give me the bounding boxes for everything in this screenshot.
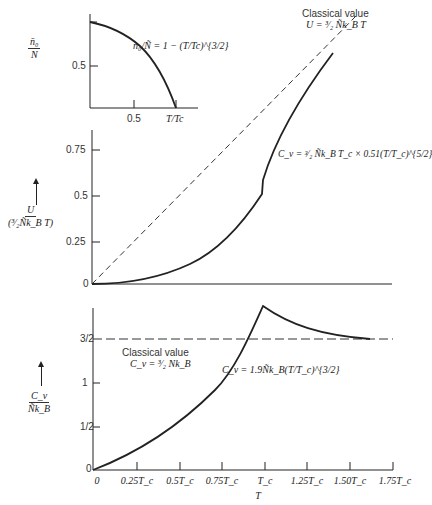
- energy-classical-title: Classical value: [302, 8, 369, 19]
- energy-ylabel-up-arrow-icon: [36, 183, 37, 205]
- heat-xtick-0.25Tc: 0.25T_c: [121, 475, 154, 486]
- inset-xtick-0.5: 0.5: [127, 113, 141, 124]
- heat-xtick-1.75Tc: 1.75T_c: [379, 475, 412, 486]
- energy-curve: [92, 53, 333, 284]
- condensate-curve: [90, 22, 176, 108]
- energy-curve-equation: C_v = ³⁄₂ Ñk_B T_c × 0.51(T/T_c)^{5/2}: [278, 149, 432, 159]
- inset-equation: n₀/Ñ = 1 − (T/Tc)^{3/2}: [133, 40, 229, 51]
- heat-curve-equation: C_v = 1.9Ñk_B(T/T_c)^{3/2}: [222, 364, 340, 375]
- heat-xtick-1.50Tc: 1.50T_c: [334, 475, 367, 486]
- inset-ylabel: n̄₀N: [28, 36, 40, 61]
- heat-xtick-Tc: T_c: [258, 475, 273, 486]
- heat-curve: [93, 306, 370, 470]
- heat-ylabel: C_vÑk_B: [28, 390, 50, 415]
- heat-classical-title: Classical value: [122, 347, 189, 358]
- energy-ytick-0.75: 0.75: [66, 144, 85, 155]
- heat-ytick-3/2: 3/2: [80, 333, 94, 344]
- inset-axes: [90, 14, 198, 108]
- inset-xlabel: T/Tc: [166, 113, 183, 124]
- energy-ylabel: U(³⁄₂Ñk_B T): [8, 204, 53, 229]
- heat-classical-equation: C_v = ³⁄₂ Nk_B: [130, 358, 191, 369]
- heat-axes: [93, 308, 393, 470]
- heat-xtick-0: 0: [95, 475, 100, 486]
- heat-ytick-1/2: 1/2: [80, 421, 94, 432]
- heat-ylabel-up-arrow-icon: [41, 366, 42, 386]
- energy-ytick-0.25: 0.25: [66, 236, 85, 247]
- inset-ytick-0.5: 0.5: [72, 60, 86, 71]
- heat-xlabel: T: [255, 490, 261, 501]
- energy-classical-equation: U = ³⁄₂ Ñk_B T: [306, 19, 366, 30]
- heat-xtick-0.5Tc: 0.5T_c: [166, 475, 194, 486]
- energy-ytick-0: 0: [83, 278, 89, 289]
- heat-ytick-1: 1: [82, 377, 88, 388]
- energy-ytick-0.5: 0.5: [74, 190, 88, 201]
- heat-ytick-0: 0: [86, 463, 92, 474]
- heat-xtick-1.25Tc: 1.25T_c: [291, 475, 324, 486]
- heat-xtick-0.75Tc: 0.75T_c: [206, 475, 239, 486]
